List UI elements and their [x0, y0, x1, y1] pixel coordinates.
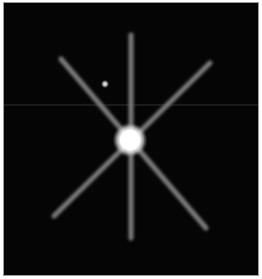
main-star-glow — [112, 122, 147, 157]
companion-star — [101, 80, 109, 88]
star-image — [0, 0, 262, 279]
